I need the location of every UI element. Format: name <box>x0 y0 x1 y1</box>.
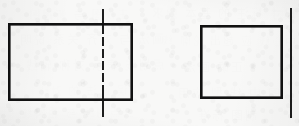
technical-drawing-figure <box>0 0 299 126</box>
right-rectangle <box>201 26 281 97</box>
scanned-drawing-page: 主视图 与 俯视图尺寸 标注 的 基本 要求画法 与 对齐 关系 说明中心线 应… <box>0 0 299 126</box>
drawing-ink-layer <box>0 0 299 126</box>
left-rectangle <box>9 24 131 99</box>
